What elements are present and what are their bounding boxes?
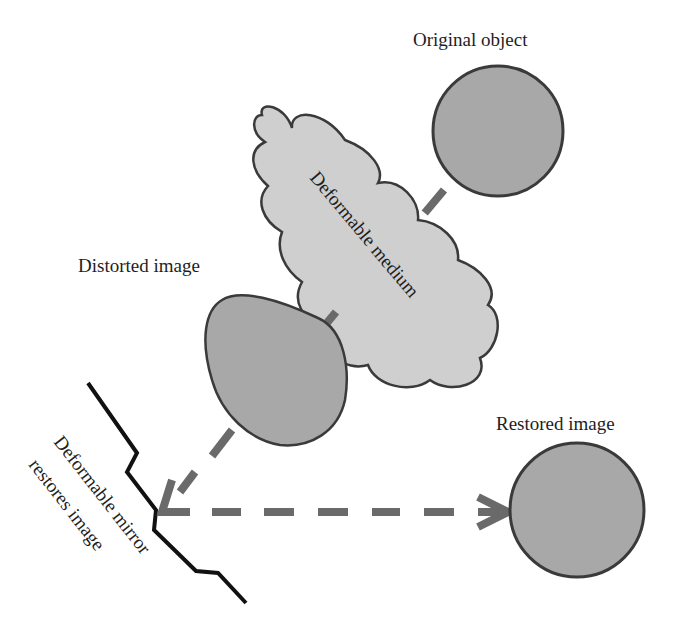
restored-image-circle [510,443,644,577]
original-object-circle [433,66,563,196]
arrow-distorted-to-mirror [162,430,232,512]
original-object-label: Original object [413,29,528,50]
adaptive-optics-diagram: Original object Deformable medium Distor… [0,0,675,633]
restored-image: Restored image [496,413,644,577]
restored-image-label: Restored image [496,413,615,434]
distorted-image-label: Distorted image [78,255,200,276]
arrow-mirror-to-restored [162,497,508,527]
original-object-stem [422,187,447,215]
original-object: Original object [413,29,563,216]
deformable-mirror: Deformable mirror restores image [25,383,246,603]
